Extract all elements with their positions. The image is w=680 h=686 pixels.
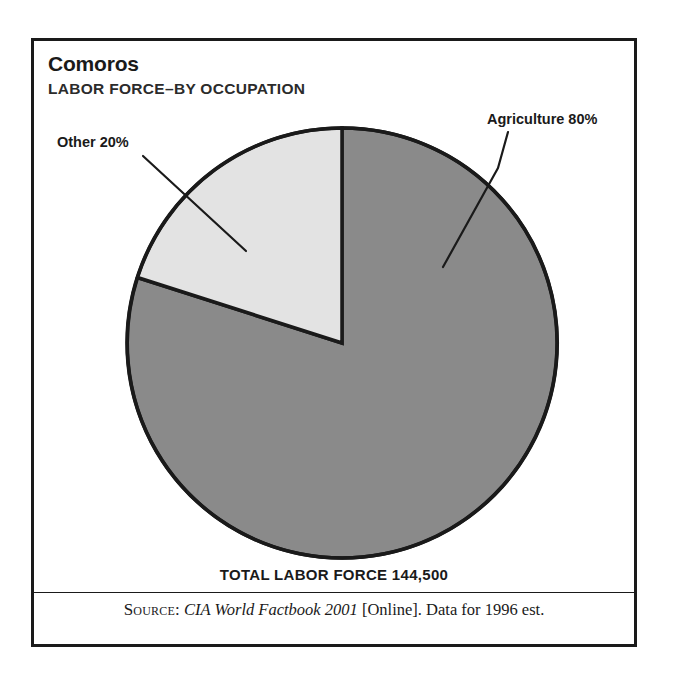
source-kicker: Source: [124, 600, 180, 619]
chart-title: Comoros [48, 52, 468, 76]
source-work-title: CIA World Factbook 2001 [184, 600, 358, 619]
chart-figure: Comoros LABOR FORCE–BY OCCUPATION Other … [0, 0, 680, 686]
slice-label-agriculture: Agriculture 80% [487, 111, 597, 127]
figure-border [31, 38, 637, 647]
chart-subtitle: LABOR FORCE–BY OCCUPATION [48, 79, 468, 99]
total-labor-force-label: TOTAL LABOR FORCE 144,500 [31, 566, 637, 583]
source-detail: [Online]. Data for 1996 est. [362, 600, 544, 619]
slice-label-other: Other 20% [57, 134, 129, 150]
source-line: Source: CIA World Factbook 2001 [Online]… [31, 600, 637, 620]
title-block: Comoros LABOR FORCE–BY OCCUPATION [48, 52, 468, 99]
source-divider [34, 592, 634, 593]
